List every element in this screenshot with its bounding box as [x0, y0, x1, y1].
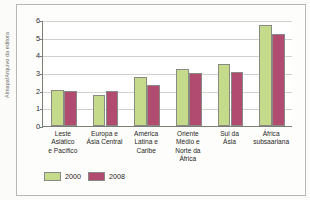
chart-legend: 20002008 [44, 172, 125, 181]
image-credit: Almapa/Arquivo da editora [0, 0, 14, 130]
bar-group [51, 21, 77, 126]
bar-2008-1 [64, 91, 77, 126]
x-axis-label-1: LesteAsiáticoe Pacífico [42, 130, 84, 155]
y-tick-label: 2 [36, 88, 40, 95]
bar-2008-4 [189, 73, 202, 126]
y-tick-label: 1 [36, 106, 40, 113]
y-tick-label: 3 [36, 70, 40, 77]
bar-2008-2 [106, 91, 119, 126]
x-axis-label-2: Europa eÁsia Central [84, 130, 126, 147]
bar-group [176, 21, 202, 126]
plot-area: 0123456 [42, 21, 292, 127]
legend-label-2008: 2008 [109, 173, 125, 180]
bar-2000-1 [51, 90, 64, 126]
bar-2000-6 [259, 25, 272, 126]
x-axis-label-5: Sul daÁsia [209, 130, 251, 147]
y-tick-label: 5 [36, 35, 40, 42]
bar-2008-5 [231, 72, 244, 126]
y-tick-label: 4 [36, 53, 40, 60]
bars-layer [43, 21, 292, 126]
x-axis-label-6: Áfricasubsaariana [250, 130, 292, 147]
x-axis-label-3: AméricaLatina eCaribe [125, 130, 167, 155]
image-credit-text: Almapa/Arquivo da editora [4, 32, 10, 98]
bar-2008-3 [147, 85, 160, 126]
figure-root: Almapa/Arquivo da editora 0123456 LesteA… [0, 0, 310, 200]
bar-group [259, 21, 285, 126]
bar-group [134, 21, 160, 126]
bar-2008-6 [272, 34, 285, 126]
bar-group [218, 21, 244, 126]
x-axis-labels: LesteAsiáticoe PacíficoEuropa eÁsia Cent… [42, 130, 292, 170]
bar-2000-2 [93, 95, 106, 126]
bar-2000-3 [134, 77, 147, 126]
bar-group [93, 21, 119, 126]
y-tick-mark [40, 127, 43, 128]
legend-label-2000: 2000 [65, 173, 81, 180]
legend-swatch-2000 [44, 172, 61, 181]
bar-2000-4 [176, 69, 189, 126]
legend-swatch-2008 [88, 172, 105, 181]
x-axis-label-4: OrienteMédio eNorte daÁfrica [167, 130, 209, 164]
legend-item-2008[interactable]: 2008 [88, 172, 125, 181]
bar-2000-5 [218, 64, 231, 126]
y-tick-label: 0 [36, 123, 40, 130]
y-tick-label: 6 [36, 17, 40, 24]
legend-item-2000[interactable]: 2000 [44, 172, 81, 181]
